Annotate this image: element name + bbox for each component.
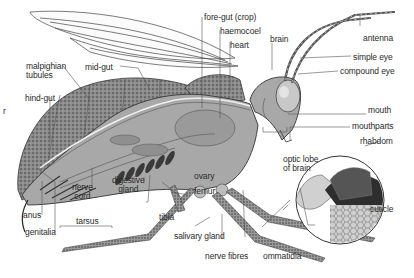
label-rhabdom: rhabdom [360,137,393,146]
label-brain: brain [270,35,288,44]
label-antenna: antenna [363,34,393,43]
label-haemocoel: haemocoel [220,27,261,36]
label-nerve-cord-line2: cord [72,192,93,201]
label-heart: heart [230,41,249,50]
label-compound-eye: compound eye [340,67,395,76]
label-tarsus: tarsus [76,217,99,226]
label-anus: anus [23,211,41,220]
label-mouth: mouth [368,106,391,115]
label-cuticle: cuticle [370,205,393,214]
label-mid-gut: mid-gut [85,63,113,72]
label-digestive-gland-line2: gland [112,185,145,194]
label-tibia: tibia [159,213,174,222]
label-left-edge-fragment: r [3,107,6,116]
label-salivary-gland: salivary gland [174,232,225,241]
label-nerve-fibres: nerve fibres [205,252,248,261]
label-femur: femur [194,187,215,196]
label-optic-lobe-line2: of brain [283,164,318,173]
label-digestive-gland: digestive gland [112,176,145,194]
label-simple-eye: simple eye [353,53,393,62]
label-ovary: ovary [194,172,214,181]
label-hind-gut: hind-gut [25,94,55,103]
label-malpighian-tubules: malpighian tubules [26,62,66,80]
label-genitalia: genitalia [25,228,56,237]
label-optic-lobe: optic lobe of brain [283,155,318,173]
label-malpighian-line2: tubules [26,71,66,80]
label-mouthparts: mouthparts [352,122,394,131]
label-nerve-cord: nerve cord [72,183,93,201]
label-ommatidia: ommatidia [263,252,301,261]
label-fore-gut: fore-gut (crop) [204,13,256,22]
